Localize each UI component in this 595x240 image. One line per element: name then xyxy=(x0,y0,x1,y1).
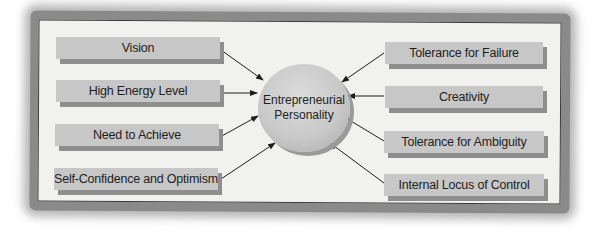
entrepreneurial-personality-circle: Entrepreneurial Personality xyxy=(258,64,350,152)
trait-box-vision: Vision xyxy=(56,37,220,59)
trait-box-tolerance-for-failure: Tolerance for Failure xyxy=(385,42,543,64)
trait-box-internal-locus-of-control: Internal Locus of Control xyxy=(384,174,544,196)
center-label-line1: Entrepreneurial xyxy=(263,93,345,108)
arrow-internal-locus xyxy=(330,143,384,183)
trait-label: High Energy Level xyxy=(89,84,188,98)
center-label-line2: Personality xyxy=(274,108,333,123)
arrow-need-to-achieve xyxy=(220,116,258,137)
trait-label: Vision xyxy=(122,41,155,55)
trait-label: Tolerance for Ambiguity xyxy=(401,135,526,149)
trait-label: Need to Achieve xyxy=(93,128,181,142)
trait-label: Creativity xyxy=(439,90,489,104)
trait-box-self-confidence: Self-Confidence and Optimism xyxy=(54,168,218,190)
arrow-tolerance-failure xyxy=(342,53,384,82)
arrow-self-confidence xyxy=(218,143,275,181)
trait-label: Self-Confidence and Optimism xyxy=(54,172,218,186)
arrow-tolerance-ambiguity xyxy=(346,118,384,141)
trait-box-need-to-achieve: Need to Achieve xyxy=(55,124,219,146)
trait-box-high-energy-level: High Energy Level xyxy=(56,80,220,102)
arrow-vision xyxy=(221,50,263,80)
trait-label: Tolerance for Failure xyxy=(409,46,519,60)
trait-box-creativity: Creativity xyxy=(385,86,543,108)
trait-box-tolerance-for-ambiguity: Tolerance for Ambiguity xyxy=(384,131,544,153)
trait-label: Internal Locus of Control xyxy=(398,178,529,192)
